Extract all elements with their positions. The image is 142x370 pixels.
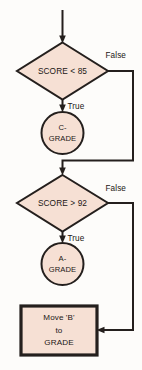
terminal-a-grade[interactable]: A- GRADE (42, 243, 84, 285)
flowchart-svg: SCORE < 85 C- GRADE SCORE > 92 A- GRADE … (0, 0, 142, 370)
decision-score-gt-92[interactable]: SCORE > 92 (17, 175, 108, 232)
decision-score-lt-85-label: SCORE < 85 (38, 66, 87, 76)
process-move-b-label-line3: GRADE (44, 338, 74, 347)
process-move-b-label-line1: Move 'B' (43, 313, 75, 322)
edge-label-true-1: True (68, 102, 85, 111)
decision-score-gt-92-label: SCORE > 92 (38, 198, 87, 208)
edge-label-true-2: True (68, 234, 85, 243)
connector-true-1 (59, 100, 66, 113)
terminal-a-grade-label-line1: A- (59, 254, 67, 263)
terminal-c-grade[interactable]: C- GRADE (42, 112, 84, 154)
connector-entry (59, 10, 66, 44)
process-move-b[interactable]: Move 'B' to GRADE (21, 306, 97, 355)
flowchart-canvas: SCORE < 85 C- GRADE SCORE > 92 A- GRADE … (0, 0, 142, 370)
edge-label-false-2: False (106, 184, 127, 193)
terminal-c-grade-label-line1: C- (58, 123, 67, 132)
terminal-a-grade-label-line2: GRADE (49, 265, 77, 274)
decision-score-lt-85[interactable]: SCORE < 85 (17, 43, 108, 100)
connector-false-2 (97, 203, 134, 333)
terminal-c-grade-label-line2: GRADE (49, 134, 77, 143)
edge-label-false-1: False (106, 51, 127, 60)
process-move-b-label-line2: to (56, 326, 63, 335)
connector-true-2 (59, 232, 66, 244)
